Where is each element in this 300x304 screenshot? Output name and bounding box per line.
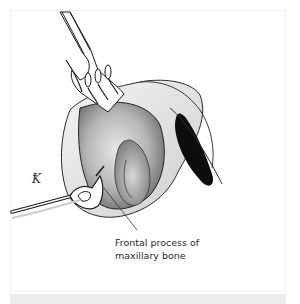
rake-retractor-icon — [60, 12, 124, 112]
label-line-1: Frontal process of — [115, 236, 199, 249]
caption-bar — [10, 294, 286, 304]
anatomy-label: Frontal process of maxillary bone — [115, 236, 199, 262]
artist-signature: Ꝁ — [32, 172, 41, 186]
label-line-2: maxillary bone — [115, 249, 199, 262]
